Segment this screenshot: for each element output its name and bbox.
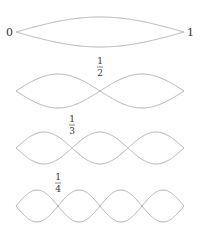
mode-1 bbox=[16, 17, 184, 47]
fraction-numerator: 1 bbox=[55, 172, 61, 182]
wave-curve-upper bbox=[16, 132, 184, 164]
fraction-numerator: 1 bbox=[97, 56, 103, 66]
mode-4: 14 bbox=[16, 172, 184, 222]
wave-curve-lower bbox=[16, 190, 184, 222]
wave-curve-lower bbox=[16, 74, 184, 108]
mode-3: 13 bbox=[16, 114, 184, 164]
node-label-fraction: 13 bbox=[69, 114, 75, 136]
node-label-fraction: 12 bbox=[97, 56, 103, 78]
fraction-denominator: 3 bbox=[69, 126, 75, 136]
harmonic-modes: 121314 bbox=[16, 17, 184, 222]
wave-curve-lower bbox=[16, 132, 184, 164]
mode-2: 12 bbox=[16, 56, 184, 108]
standing-waves-diagram: 0 1 121314 bbox=[0, 0, 202, 239]
endpoint-label-right: 1 bbox=[187, 26, 194, 39]
node-label-fraction: 14 bbox=[55, 172, 61, 194]
fraction-numerator: 1 bbox=[69, 114, 75, 124]
endpoint-label-left: 0 bbox=[6, 26, 13, 39]
fraction-denominator: 4 bbox=[55, 184, 61, 194]
wave-curve-lower bbox=[16, 32, 184, 47]
wave-curve-upper bbox=[16, 17, 184, 32]
fraction-denominator: 2 bbox=[97, 68, 103, 78]
